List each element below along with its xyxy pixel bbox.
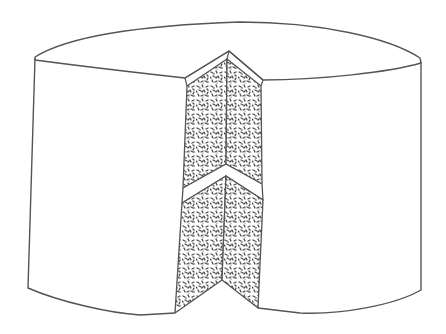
exposed-slice-interior bbox=[175, 51, 263, 313]
cake-illustration bbox=[0, 0, 446, 334]
